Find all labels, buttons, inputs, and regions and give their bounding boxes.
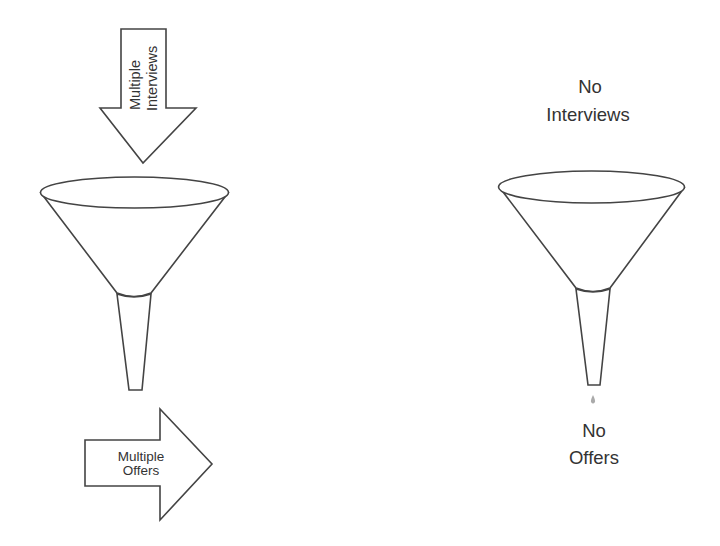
- arrow-label-multiple: Multiple: [127, 60, 143, 110]
- no-offers-label: No Offers: [569, 420, 619, 468]
- funnel-right: [499, 171, 685, 404]
- arrow-label-offers: Offers: [123, 463, 160, 478]
- label-no: No: [578, 76, 602, 97]
- drip-icon: [591, 395, 595, 404]
- label-interviews: Interviews: [546, 104, 629, 125]
- multiple-offers-arrow: Multiple Offers: [85, 409, 212, 520]
- funnel-spout: [576, 289, 610, 385]
- multiple-interviews-arrow: Multiple Interviews: [100, 29, 196, 163]
- no-interviews-label: No Interviews: [546, 76, 629, 125]
- funnel-left: [41, 177, 229, 390]
- funnel-diagram: Multiple Interviews Multiple Offers No I…: [0, 0, 720, 546]
- arrow-label-interviews: Interviews: [144, 46, 160, 111]
- funnel-spout: [117, 294, 151, 390]
- arrow-label-multiple: Multiple: [118, 449, 165, 464]
- label-offers: Offers: [569, 447, 619, 468]
- funnel-rim: [499, 171, 685, 203]
- label-no: No: [582, 420, 606, 441]
- funnel-rim: [41, 177, 229, 208]
